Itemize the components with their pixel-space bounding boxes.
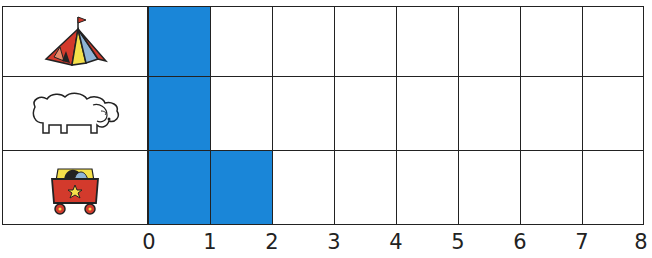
chart-row-circus-wagon — [2, 150, 644, 225]
bar-cell-filled — [210, 150, 273, 225]
grid-cell — [334, 76, 397, 151]
pictograph-bar-chart — [2, 6, 644, 225]
grid-cell — [520, 6, 583, 77]
grid-cell — [272, 150, 335, 225]
x-tick: 0 — [134, 230, 164, 254]
grid-cell — [396, 150, 459, 225]
grid-cell — [458, 76, 521, 151]
grid-cell — [272, 6, 335, 77]
row-label-cell — [2, 6, 148, 77]
chart-row-tent — [2, 6, 644, 77]
grid-cell — [334, 150, 397, 225]
x-tick: 3 — [319, 230, 349, 254]
grid-cell — [520, 76, 583, 151]
x-tick: 6 — [505, 230, 535, 254]
row-label-cell — [2, 76, 148, 151]
bar-cell-filled — [148, 76, 211, 151]
x-tick: 4 — [381, 230, 411, 254]
grid-cell — [396, 6, 459, 77]
bar-cell-filled — [148, 150, 211, 225]
x-tick: 2 — [257, 230, 287, 254]
grid-cell — [520, 150, 583, 225]
grid-cell — [210, 76, 273, 151]
chart-row-sheep — [2, 76, 644, 151]
bar-cell-filled — [148, 6, 211, 77]
row-label-cell — [2, 150, 148, 225]
grid-cell — [582, 6, 644, 77]
grid-cell — [582, 76, 644, 151]
grid-cell — [458, 150, 521, 225]
grid-cell — [334, 6, 397, 77]
x-tick: 8 — [626, 230, 652, 254]
x-tick: 7 — [567, 230, 597, 254]
circus-tent-icon — [42, 15, 108, 69]
grid-cell — [396, 76, 459, 151]
sheep-icon — [27, 89, 123, 139]
grid-cell — [272, 76, 335, 151]
x-tick: 5 — [443, 230, 473, 254]
x-tick: 1 — [195, 230, 225, 254]
grid-cell — [210, 6, 273, 77]
circus-wagon-icon — [44, 159, 106, 217]
grid-cell — [582, 150, 644, 225]
grid-cell — [458, 6, 521, 77]
x-axis-ticks: 0 1 2 3 4 5 6 7 8 — [0, 230, 652, 254]
